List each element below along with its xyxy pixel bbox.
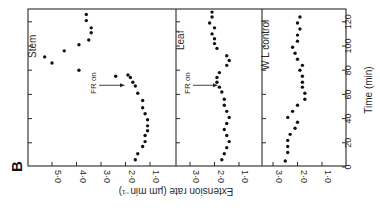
data-point — [85, 13, 88, 16]
data-point — [136, 152, 139, 155]
figure-label: B — [8, 161, 25, 172]
data-point — [293, 52, 296, 55]
data-point — [218, 85, 221, 88]
data-point — [43, 55, 46, 58]
data-point — [220, 90, 223, 93]
data-point — [296, 39, 299, 42]
data-point — [296, 121, 299, 124]
data-point — [301, 81, 304, 84]
data-point — [301, 64, 304, 67]
data-point — [131, 81, 134, 84]
data-point — [114, 75, 117, 78]
data-point — [288, 133, 291, 136]
value-tick-label: 2·0 — [299, 170, 309, 183]
data-point — [77, 43, 80, 46]
data-point — [208, 21, 211, 24]
data-point — [90, 31, 93, 34]
y-axis-label: Extension rate (µm min⁻¹) — [119, 186, 234, 197]
data-point — [286, 145, 289, 148]
data-point — [210, 15, 213, 18]
data-point — [286, 151, 289, 154]
data-point — [228, 59, 231, 62]
data-point — [298, 15, 301, 18]
value-tick-label: 2·0 — [127, 170, 137, 183]
panel-title: Leaf — [175, 30, 186, 50]
data-point — [146, 129, 149, 132]
value-tick-label: 1·0 — [240, 170, 250, 183]
data-point — [215, 76, 218, 79]
value-tick-label: 3·0 — [102, 170, 112, 183]
data-point — [143, 112, 146, 115]
data-point — [136, 91, 139, 94]
time-tick-label: 80 — [343, 65, 353, 75]
data-point — [286, 139, 289, 142]
data-point — [146, 124, 149, 127]
data-point — [141, 106, 144, 109]
data-point — [141, 145, 144, 148]
value-tick-label: 1·0 — [323, 170, 333, 183]
data-point — [213, 37, 216, 40]
data-point — [218, 71, 221, 74]
data-point — [225, 146, 228, 149]
data-point — [143, 134, 146, 137]
data-point — [134, 158, 137, 161]
data-point — [220, 158, 223, 161]
data-point — [90, 26, 93, 29]
data-point — [126, 73, 129, 76]
data-point — [213, 42, 216, 45]
panel-title: Stem — [27, 35, 38, 58]
time-tick-label: 40 — [343, 114, 353, 124]
data-point — [63, 49, 66, 52]
data-point — [141, 99, 144, 102]
fr-on-annotation: FR on — [183, 72, 192, 94]
data-point — [228, 140, 231, 143]
data-point — [303, 91, 306, 94]
data-point — [225, 110, 228, 113]
time-tick-label: 100 — [343, 38, 353, 53]
value-tick-label: 3·0 — [274, 170, 284, 183]
figure: 5·04·03·02·01·0StemFR on3·02·01·0LeafFR … — [0, 0, 380, 217]
value-tick-label: 1·0 — [151, 170, 161, 183]
value-tick-label: 2·0 — [216, 170, 226, 183]
data-point — [143, 140, 146, 143]
data-point — [291, 110, 294, 113]
data-point — [77, 69, 80, 72]
data-point — [215, 47, 218, 50]
data-point — [225, 134, 228, 137]
data-point — [213, 26, 216, 29]
data-point — [223, 128, 226, 131]
data-point — [296, 58, 299, 61]
value-tick-label: 3·0 — [191, 170, 201, 183]
data-point — [303, 98, 306, 101]
data-point — [223, 152, 226, 155]
data-point — [293, 127, 296, 130]
value-tick-label: 5·0 — [53, 170, 63, 183]
data-point — [50, 61, 53, 64]
time-tick-label: 0 — [343, 164, 353, 169]
data-point — [210, 10, 213, 13]
data-point — [210, 32, 213, 35]
data-point — [298, 69, 301, 72]
data-point — [298, 27, 301, 30]
data-point — [284, 159, 287, 162]
panel-title: W L control — [260, 20, 271, 70]
data-point — [301, 85, 304, 88]
x-axis-label: Time (min) — [363, 66, 374, 113]
time-tick-label: 20 — [343, 138, 353, 148]
fr-on-annotation: FR on — [89, 72, 98, 94]
data-point — [146, 118, 149, 121]
data-point — [301, 75, 304, 78]
data-point — [225, 64, 228, 67]
data-point — [296, 104, 299, 107]
data-point — [223, 104, 226, 107]
value-tick-label: 4·0 — [78, 170, 88, 183]
data-point — [215, 81, 218, 84]
data-point — [129, 76, 132, 79]
data-point — [225, 122, 228, 125]
data-point — [225, 54, 228, 57]
data-point — [291, 46, 294, 49]
data-point — [228, 116, 231, 119]
data-point — [87, 38, 90, 41]
labels: 5·04·03·02·01·0StemFR on3·02·01·0LeafFR … — [8, 14, 374, 197]
data-point — [134, 84, 137, 87]
